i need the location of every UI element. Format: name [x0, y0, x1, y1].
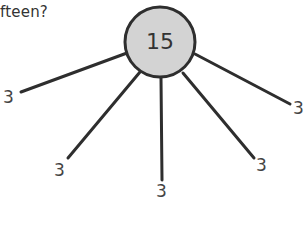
connector-line-right — [195, 54, 290, 104]
part-label-left: 3 — [3, 89, 14, 106]
part-label-lower-left: 3 — [54, 162, 65, 179]
part-label-lower-right: 3 — [256, 157, 267, 174]
connector-line-bottom — [161, 78, 162, 180]
connector-line-lower-left — [68, 72, 140, 158]
whole-value: 15 — [130, 31, 190, 53]
part-label-right: 3 — [293, 100, 304, 117]
connector-line-left — [21, 53, 127, 92]
connector-line-lower-right — [183, 73, 254, 158]
part-label-bottom: 3 — [156, 183, 167, 200]
